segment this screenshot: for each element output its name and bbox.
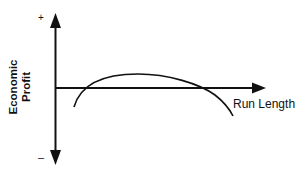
profit-curve (74, 74, 233, 116)
diagram-canvas (0, 0, 298, 174)
positive-sign: + (38, 12, 44, 23)
y-axis-down-arrow-icon (50, 150, 61, 165)
x-axis-right-arrow-icon (252, 83, 266, 94)
y-axis-label: Economic Profit (7, 55, 33, 119)
y-axis-up-arrow-icon (50, 13, 61, 28)
y-axis-label-line1: Economic (7, 55, 20, 119)
negative-sign: – (38, 151, 44, 163)
y-axis-label-line2: Profit (20, 55, 33, 119)
x-axis-label: Run Length (233, 97, 295, 111)
